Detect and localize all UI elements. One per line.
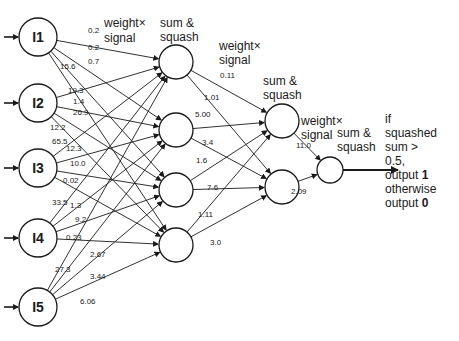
weight-label: 0.2 — [88, 43, 100, 52]
weight-label: 2.67 — [90, 250, 106, 259]
weight-label: 0.11 — [220, 71, 236, 80]
annotation-text: signal — [301, 128, 332, 142]
weight-label: 7.6 — [207, 183, 219, 192]
weight-label: 9.2 — [75, 215, 87, 224]
edge-i5-h3 — [52, 202, 162, 295]
node-label: I5 — [32, 299, 44, 315]
annotation-text: sum & — [337, 126, 371, 140]
neural-network-diagram: I1I2I3I4I5 0.20.20.715.619.31.426.912.26… — [0, 0, 459, 341]
weight-label: 15.6 — [60, 62, 76, 71]
annotation-text: 0.5, — [385, 154, 405, 168]
annotation-text: squash — [263, 88, 302, 102]
annotation-text: weight× — [103, 16, 146, 30]
weight-label: 3.44 — [90, 272, 106, 281]
weight-label: 3.0 — [210, 238, 222, 247]
weight-label: 11.0 — [296, 141, 312, 150]
hidden1-node-h4 — [159, 228, 193, 262]
annotation-sum-squash-3: sum & squash — [337, 126, 376, 154]
weight-label: 10.0 — [70, 159, 86, 168]
hidden2-node-j1 — [265, 104, 299, 138]
weight-label: 33.5 — [52, 198, 68, 207]
annotation-text: output 0 — [385, 196, 429, 210]
edge-i2-h2 — [57, 107, 159, 127]
weight-label: 5.00 — [195, 110, 211, 119]
node-label: I3 — [32, 160, 44, 176]
input-node-i1: I1 — [19, 18, 57, 56]
edge-i5-h4 — [55, 252, 159, 299]
annotation-text: sum & — [263, 74, 297, 88]
weight-label: 3.4 — [202, 138, 214, 147]
node-label: I4 — [32, 230, 44, 246]
weight-label: 1.6 — [196, 156, 208, 165]
input-node-i2: I2 — [19, 84, 57, 122]
weight-label: 6.06 — [80, 297, 96, 306]
annotation-text: otherwise — [385, 182, 437, 196]
weight-label: 12.3 — [66, 144, 82, 153]
input-node-i4: I4 — [19, 219, 57, 257]
annotation-text: sum > — [385, 140, 418, 154]
input-node-i5: I5 — [19, 288, 57, 326]
annotation-text: squash — [160, 30, 199, 44]
annotation-weight-signal-1: weight× signal — [103, 16, 146, 45]
weight-label: 2.09 — [291, 187, 307, 196]
weight-label: 1.3 — [70, 201, 82, 210]
edge-j2-o — [298, 175, 317, 182]
weight-label: 26.9 — [73, 108, 89, 117]
annotation-text: signal — [104, 31, 135, 45]
hidden1-node-h3 — [159, 173, 193, 207]
weight-label: 1.4 — [73, 97, 85, 106]
weight-label: 1.11 — [198, 210, 214, 219]
annotation-sum-squash-2: sum & squash — [263, 74, 302, 102]
weight-label: 0.23 — [66, 233, 82, 242]
annotation-text: if — [385, 112, 392, 126]
annotation-output-rule: if squashed sum > 0.5, output 1 otherwis… — [385, 112, 437, 210]
weight-label: 0.7 — [88, 57, 100, 66]
weight-label: 12.2 — [50, 123, 66, 132]
weight-label: 19.3 — [68, 86, 84, 95]
annotation-sum-squash-1: sum & squash — [160, 16, 199, 44]
weight-label: 1.01 — [204, 93, 220, 102]
annotation-text: signal — [219, 53, 250, 67]
hidden1-node-h1 — [159, 45, 193, 79]
annotation-text: squash — [337, 140, 376, 154]
annotation-weight-signal-2: weight× signal — [218, 39, 261, 67]
edge-h3-j2 — [193, 188, 264, 190]
annotation-text: weight× — [218, 39, 261, 53]
annotation-text: output 1 — [385, 168, 429, 182]
weight-label: 27.3 — [55, 265, 71, 274]
weight-label: 0.02 — [63, 176, 79, 185]
node-label: I2 — [32, 95, 44, 111]
annotation-text: sum & — [160, 16, 194, 30]
node-label: I1 — [32, 29, 44, 45]
weight-label: 0.2 — [88, 26, 100, 35]
output-node — [317, 157, 343, 183]
hidden1-node-h2 — [159, 113, 193, 147]
annotation-text: squashed — [385, 126, 437, 140]
input-node-i3: I3 — [19, 149, 57, 187]
